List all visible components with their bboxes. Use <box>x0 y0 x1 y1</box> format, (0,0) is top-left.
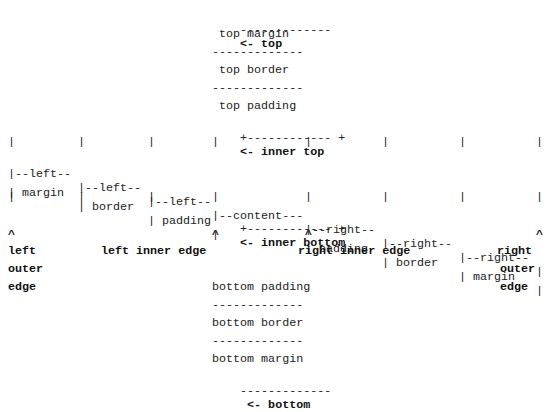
bottom-border-label: bottom border <box>212 316 303 330</box>
top-margin-rule: ------------- <box>212 45 303 59</box>
left-inner-edge-label: left inner edge <box>101 244 206 258</box>
sep: | <box>212 135 219 149</box>
sep: | <box>148 135 155 149</box>
column-headers-row: |--left-- |--left-- |--left-- |--content… <box>0 153 546 171</box>
right-inner-edge-label: right inner edge <box>298 244 410 258</box>
separator-row-bottom: | | | | | | | | <box>0 190 546 208</box>
bottom-padding-label: bottom padding <box>212 280 310 294</box>
sep: | <box>382 135 389 149</box>
column-labels-row: | margin | border | padding | | padding … <box>0 172 546 190</box>
top-border-rule: ------------- <box>212 81 303 95</box>
separator-row-top: | | | | | | | | <box>0 135 546 153</box>
left-outer-edge-line3: edge <box>8 280 36 294</box>
bottom-padding-rule: ------------- <box>212 298 303 312</box>
left-outer-edge-line2: outer <box>8 262 43 276</box>
sep: | <box>382 190 389 204</box>
sep: | <box>8 135 15 149</box>
sep: | <box>78 135 85 149</box>
top-padding-label: top padding <box>219 99 296 113</box>
caret-left-outer-icon: ^ <box>8 228 15 242</box>
sep: | <box>305 135 312 149</box>
sep: | <box>8 190 15 204</box>
sep: | <box>459 190 466 204</box>
sep: | <box>536 135 543 149</box>
bottom-label: <- bottom <box>240 398 310 412</box>
left-padding-label: | padding <box>148 214 211 228</box>
sep: | <box>536 190 543 204</box>
caret-right-inner-icon: ^ <box>305 228 312 242</box>
bottom-margin-label: bottom margin <box>212 352 303 366</box>
sep: | <box>148 190 155 204</box>
right-outer-edge-line2: outer <box>500 262 535 276</box>
sep: | <box>305 190 312 204</box>
sep: | <box>212 190 219 204</box>
caret-right-outer-icon: ^ <box>536 228 543 242</box>
left-outer-edge-line1: left <box>8 244 36 258</box>
top-border-label: top border <box>219 63 289 77</box>
top-margin-label: top margin <box>219 27 289 41</box>
right-outer-edge-line3: edge <box>500 280 528 294</box>
sep: | <box>459 135 466 149</box>
sep: | <box>78 190 85 204</box>
right-outer-edge-line1: right <box>497 244 532 258</box>
caret-left-inner-icon: ^ <box>212 228 219 242</box>
bottom-border-rule: ------------- <box>212 334 303 348</box>
bottom-rule: ------------- <- bottom <box>212 370 331 412</box>
